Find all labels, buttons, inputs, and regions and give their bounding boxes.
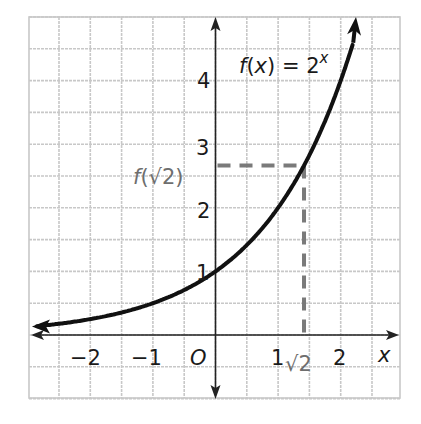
- x-tick-neg1: −1: [131, 346, 162, 370]
- curve-top-segment: [353, 29, 354, 43]
- x-sqrt2-label: √2: [285, 352, 312, 376]
- function-label: f(x) = 2x: [239, 49, 329, 78]
- x-tick-2: 2: [333, 346, 346, 370]
- x-axis-label: x: [377, 343, 391, 367]
- origin-label: O: [190, 346, 207, 370]
- x-tick-neg2: −2: [70, 346, 101, 370]
- y-tick-2: 2: [197, 199, 210, 223]
- y-tick-4: 4: [197, 69, 210, 93]
- y-tick-3: 3: [196, 136, 209, 160]
- f-sqrt2-label: f(√2): [133, 165, 184, 189]
- y-tick-1: 1: [196, 261, 209, 285]
- x-tick-1: 1: [271, 346, 284, 370]
- exponential-function-graph: f(x) = 2x 4 3 2 1 f(√2) −2 −1 O 1 √2 2 x: [0, 0, 421, 424]
